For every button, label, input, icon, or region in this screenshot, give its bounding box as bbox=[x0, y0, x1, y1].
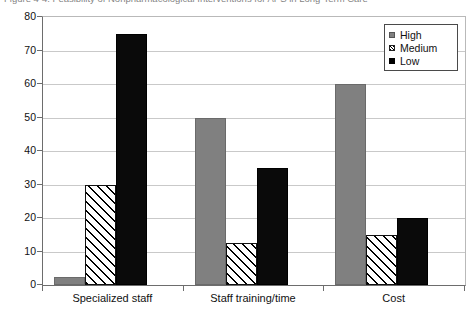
legend-item-high: High bbox=[389, 28, 453, 41]
bar-chart: 01020304050607080 Specialized staffStaff… bbox=[0, 0, 472, 314]
black-square-icon bbox=[389, 58, 395, 64]
y-axis-tick-label: 40 bbox=[4, 145, 36, 156]
bar-low-2 bbox=[397, 218, 428, 285]
bar-medium-0 bbox=[85, 185, 116, 286]
y-axis-tick-label: 30 bbox=[4, 179, 36, 190]
bar-high-0 bbox=[54, 277, 85, 285]
gray-square-icon bbox=[389, 32, 395, 38]
x-axis-category-label: Cost bbox=[323, 292, 464, 304]
bar-medium-1 bbox=[226, 243, 257, 285]
x-axis-tick-mark bbox=[323, 286, 324, 291]
legend-item-low: Low bbox=[389, 54, 453, 67]
y-axis-tick-label: 50 bbox=[4, 112, 36, 123]
y-axis-tick-label: 0 bbox=[4, 279, 36, 290]
y-axis-tick-label: 80 bbox=[4, 11, 36, 22]
legend-label: Low bbox=[400, 55, 419, 67]
x-axis-tick-mark bbox=[183, 286, 184, 291]
y-axis-tick-label: 10 bbox=[4, 246, 36, 257]
x-axis-category-label: Staff training/time bbox=[183, 292, 324, 304]
bar-low-1 bbox=[257, 168, 288, 285]
gridline bbox=[43, 118, 465, 119]
y-axis-tick-label: 20 bbox=[4, 212, 36, 223]
legend-label: Medium bbox=[400, 42, 437, 54]
gridline bbox=[43, 151, 465, 152]
legend-label: High bbox=[400, 29, 422, 41]
legend-item-medium: Medium bbox=[389, 41, 453, 54]
chart-legend: HighMediumLow bbox=[384, 24, 458, 71]
x-axis-tick-mark bbox=[42, 286, 43, 291]
gridline bbox=[43, 84, 465, 85]
bar-high-1 bbox=[195, 118, 226, 286]
bar-low-0 bbox=[116, 34, 147, 285]
hatched-square-icon bbox=[389, 45, 395, 51]
bar-medium-2 bbox=[366, 235, 397, 285]
y-axis-tick-label: 70 bbox=[4, 45, 36, 56]
bar-high-2 bbox=[335, 84, 366, 285]
x-axis-tick-mark bbox=[464, 286, 465, 291]
x-axis-category-label: Specialized staff bbox=[42, 292, 183, 304]
y-axis-tick-label: 60 bbox=[4, 78, 36, 89]
